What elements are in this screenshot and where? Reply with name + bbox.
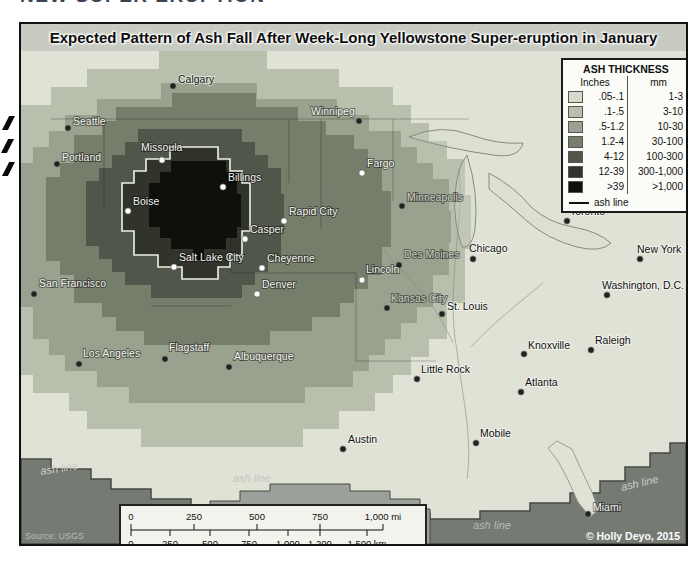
city-label: Denver: [262, 278, 296, 290]
legend: ASH THICKNESS Inches mm .05-.11-3.1-.53-…: [561, 58, 686, 213]
city-dot: [439, 311, 445, 317]
legend-swatch-wrap: [563, 104, 583, 119]
city-dot: [125, 208, 131, 214]
city-dot: [521, 351, 527, 357]
mile-tick-label: 0: [128, 511, 133, 522]
legend-inches-value: .1-.5: [583, 104, 627, 119]
legend-inches-value: .5-1.2: [583, 119, 627, 134]
legend-mm-value: 3-10: [627, 104, 686, 119]
city-dot: [259, 265, 265, 271]
km-tick-label: 1,000: [276, 538, 300, 544]
legend-ash-line-label: ash line: [594, 197, 628, 208]
ash-line-map-label: ash line: [473, 519, 511, 531]
city-dot: [585, 511, 591, 517]
legend-mm-value: 100-300: [627, 149, 686, 164]
city-label: Salt Lake City: [179, 251, 245, 263]
legend-inches-value: 1.2-4: [583, 134, 627, 149]
legend-swatch-wrap: [563, 134, 583, 149]
legend-ash-line-row: ash line: [563, 194, 686, 211]
city-dot: [518, 389, 524, 395]
source-credit: Source: USGS: [25, 531, 84, 541]
scale-bar-graphic: 02505007501,000 mi02505007501,0001,2001,…: [121, 506, 425, 544]
scale-bar: 02505007501,000 mi02505007501,0001,2001,…: [119, 504, 427, 544]
city-label: Missoula: [141, 141, 183, 153]
legend-mm-value: >1,000: [627, 179, 686, 194]
city-label: Kansas City: [391, 292, 448, 304]
legend-swatch: [568, 166, 583, 178]
city-label: Minneapolis: [407, 191, 463, 203]
cropped-heading: NEW SUPER ERUPTION: [20, 0, 460, 7]
city-label: New York: [637, 243, 682, 255]
city-label: Fargo: [367, 157, 395, 169]
city-label: Chicago: [469, 242, 508, 254]
cropped-heading-text: NEW SUPER ERUPTION: [20, 0, 460, 6]
map-canvas: ash lineash lineash lineash lineCalgaryS…: [21, 51, 686, 544]
city-label: Knoxville: [528, 339, 570, 351]
legend-col-mm: mm: [627, 76, 686, 89]
city-dot: [359, 170, 365, 176]
legend-mm-value: 300-1,000: [627, 164, 686, 179]
legend-header: Inches mm: [563, 76, 686, 89]
legend-swatch-wrap: [563, 89, 583, 104]
city-dot: [171, 264, 177, 270]
legend-mm-value: 1-3: [627, 89, 686, 104]
mile-tick-label: 250: [186, 511, 202, 522]
legend-swatch: [568, 91, 583, 103]
legend-row: 1.2-430-100: [563, 134, 686, 149]
city-dot: [159, 157, 165, 163]
city-label: Austin: [348, 433, 377, 445]
legend-col-inches: Inches: [563, 76, 627, 89]
page: NEW SUPER ERUPTION Expected Pattern of A…: [0, 0, 698, 563]
city-dot: [54, 161, 60, 167]
city-label: Rapid City: [289, 205, 338, 217]
city-label: Des Moines: [404, 248, 459, 260]
city-dot: [399, 203, 405, 209]
legend-swatch-wrap: [563, 119, 583, 134]
legend-row: .05-.11-3: [563, 89, 686, 104]
legend-inches-value: 12-39: [583, 164, 627, 179]
city-label: Portland: [62, 151, 101, 163]
legend-title: ASH THICKNESS: [563, 60, 686, 76]
city-label: Los Angeles: [83, 347, 140, 359]
city-dot: [220, 184, 226, 190]
km-tick-label: 250: [162, 538, 178, 544]
city-label: Boise: [133, 195, 159, 207]
mile-tick-label: 500: [249, 511, 265, 522]
city-dot: [242, 236, 248, 242]
city-dot: [76, 361, 82, 367]
city-dot: [356, 118, 362, 124]
legend-mm-value: 10-30: [627, 119, 686, 134]
city-label: Casper: [250, 223, 284, 235]
legend-row: 4-12100-300: [563, 149, 686, 164]
legend-swatch: [568, 106, 583, 118]
city-label: St. Louis: [447, 300, 488, 312]
edge-mark-icon: [1, 139, 14, 153]
city-dot: [170, 83, 176, 89]
copyright: © Holly Deyo, 2015: [586, 530, 680, 542]
map-frame: Expected Pattern of Ash Fall After Week-…: [19, 22, 688, 546]
ash-line-map-label: ash line: [233, 472, 271, 484]
legend-swatch-wrap: [563, 164, 583, 179]
city-label: Miami: [593, 501, 621, 513]
legend-rows: .05-.11-3.1-.53-10.5-1.210-301.2-430-100…: [563, 89, 686, 194]
legend-inches-value: >39: [583, 179, 627, 194]
km-tick-label: 500: [202, 538, 218, 544]
km-tick-label: 1,200: [308, 538, 332, 544]
city-dot: [564, 218, 570, 224]
city-dot: [359, 277, 365, 283]
km-tick-label: 0: [128, 538, 133, 544]
legend-mm-value: 30-100: [627, 134, 686, 149]
legend-inches-value: 4-12: [583, 149, 627, 164]
legend-row: .1-.53-10: [563, 104, 686, 119]
city-label: Washington, D.C.: [602, 279, 684, 291]
city-dot: [637, 256, 643, 262]
mile-tick-label: 1,000 mi: [365, 511, 401, 522]
city-label: Seattle: [73, 115, 106, 127]
ash-line-symbol-icon: [569, 202, 589, 204]
edge-mark-icon: [2, 116, 15, 130]
city-dot: [414, 376, 420, 382]
city-dot: [470, 256, 476, 262]
city-label: Raleigh: [595, 334, 631, 346]
city-label: Winnipeg: [311, 105, 355, 117]
city-label: Calgary: [178, 73, 215, 85]
